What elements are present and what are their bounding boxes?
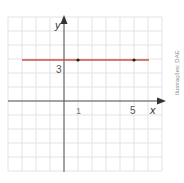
point-1-3 xyxy=(76,58,79,61)
coordinate-plane: y x 3 1 5 xyxy=(0,0,184,183)
point-5-3 xyxy=(132,58,135,61)
x-axis-label: x xyxy=(149,104,156,116)
y-axis-label: y xyxy=(54,19,62,31)
tick-label-y3: 3 xyxy=(56,64,62,75)
credit-text: Ilustrações: DAE xyxy=(174,35,184,95)
grid xyxy=(8,17,162,171)
tick-label-x5: 5 xyxy=(130,105,136,116)
tick-label-x1: 1 xyxy=(76,106,81,116)
y-axis-arrow-icon xyxy=(61,15,68,24)
